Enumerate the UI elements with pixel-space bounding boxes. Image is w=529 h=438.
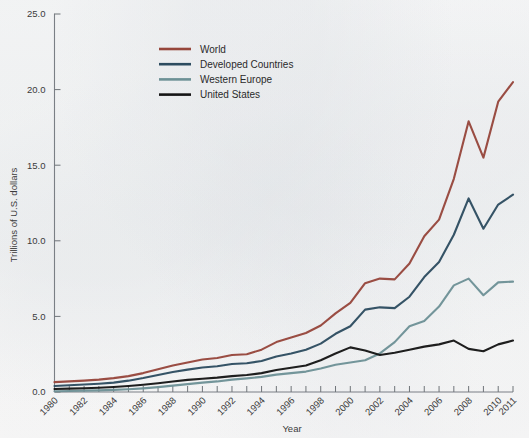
legend-label-world: World	[200, 44, 226, 55]
y-tick-label: 25.0	[27, 8, 46, 19]
x-tick-label: 2006	[422, 395, 445, 418]
x-tick-label: 1982	[67, 395, 90, 418]
x-tick-label: 2011	[496, 395, 518, 417]
x-tick-label: 1998	[303, 395, 326, 418]
series-layer	[55, 82, 514, 391]
y-axis-title: Trillions of U.S. dollars	[8, 167, 19, 262]
x-tick-label: 2004	[392, 395, 415, 418]
series-line-developed-countries	[55, 195, 514, 386]
x-tick-label: 1984	[96, 395, 119, 418]
x-tick-label: 1996	[274, 395, 297, 418]
x-tick-label: 2002	[363, 395, 386, 418]
x-tick-label: 1992	[215, 395, 238, 418]
y-tick-label: 15.0	[27, 160, 46, 171]
x-tick-label: 1988	[156, 395, 179, 418]
legend-label-united-states: United States	[200, 89, 260, 100]
x-tick-label: 1980	[37, 395, 60, 418]
x-tick-label: 2008	[451, 395, 474, 418]
x-axis-title: Year	[282, 423, 301, 434]
series-line-world	[55, 82, 514, 382]
axis-titles: Trillions of U.S. dollarsYear	[8, 167, 302, 434]
x-tick-label: 1990	[185, 395, 208, 418]
legend-label-western-europe: Western Europe	[200, 74, 273, 85]
line-chart: 0.05.010.015.020.025.0198019821984198619…	[0, 0, 529, 438]
x-tick-label: 1994	[244, 395, 267, 418]
x-tick-label: 1986	[126, 395, 149, 418]
y-tick-label: 5.0	[32, 311, 45, 322]
chart-container: 0.05.010.015.020.025.0198019821984198619…	[0, 0, 529, 438]
legend: WorldDeveloped CountriesWestern EuropeUn…	[159, 44, 293, 101]
y-tick-label: 10.0	[27, 235, 46, 246]
y-tick-label: 20.0	[27, 84, 46, 95]
series-line-western-europe	[55, 279, 514, 392]
legend-label-developed-countries: Developed Countries	[200, 59, 293, 70]
x-tick-label: 2000	[333, 395, 356, 418]
y-tick-label: 0.0	[32, 386, 45, 397]
